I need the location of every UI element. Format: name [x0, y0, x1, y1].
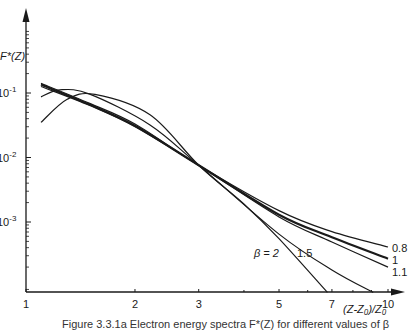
series-label-beta-1-5: 1.5	[297, 247, 312, 259]
series-label-beta-1: 1	[392, 254, 398, 266]
y-axis-arrow-icon	[23, 8, 30, 22]
y-tick-label: 10-1	[0, 85, 17, 99]
y-tick-label: 10-3	[0, 214, 17, 228]
y-axis-title: F*(Z)	[0, 50, 25, 62]
y-tick-label: 10-2	[0, 150, 17, 164]
figure-caption: Figure 3.3.1a Electron energy spectra F*…	[62, 318, 389, 330]
series-labels: 0.811.11.5β = 2	[253, 242, 407, 278]
chart: 1235710 10-110-210-3 0.811.11.5β = 2 F*(…	[0, 0, 418, 331]
series-label-beta-0-8: 0.8	[392, 242, 407, 254]
axes	[23, 8, 406, 296]
series-line-beta-1-5	[41, 89, 373, 292]
x-tick-label: 5	[276, 298, 282, 310]
x-tick-label: 1	[23, 298, 29, 310]
x-axis-title: (Z-Z₀)/Z₀	[343, 303, 387, 315]
series-lines	[41, 83, 388, 292]
series-label-beta-1-1: 1.1	[392, 266, 407, 278]
x-tick-label: 3	[196, 298, 202, 310]
series-label-beta-2: β = 2	[253, 247, 279, 259]
series-line-beta-2	[41, 93, 327, 292]
x-tick-label: 7	[329, 298, 335, 310]
x-axis-arrow-icon	[391, 289, 405, 296]
x-tick-label: 2	[132, 298, 138, 310]
series-line-beta-0-8	[41, 83, 388, 247]
